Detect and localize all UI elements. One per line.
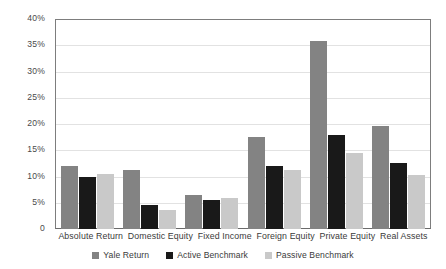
bar-group: [61, 20, 114, 229]
bar[interactable]: [346, 153, 363, 229]
bar-group: [123, 20, 176, 229]
y-axis-tick-label: 10%: [0, 171, 45, 181]
bar-groups: [56, 20, 430, 229]
legend-item[interactable]: Yale Return: [92, 250, 149, 260]
bar[interactable]: [266, 166, 283, 229]
bar[interactable]: [159, 210, 176, 229]
bar[interactable]: [203, 200, 220, 229]
bar-group: [248, 20, 301, 229]
x-axis-tick-label: Real Assets: [380, 231, 428, 245]
y-axis-tick-label: 35%: [0, 39, 45, 49]
y-axis-tick-label: 20%: [0, 118, 45, 128]
y-axis-tick-label: 15%: [0, 144, 45, 154]
bar[interactable]: [284, 170, 301, 229]
bar[interactable]: [328, 135, 345, 230]
bar[interactable]: [372, 126, 389, 229]
legend-label: Active Benchmark: [177, 250, 248, 260]
bar[interactable]: [310, 41, 327, 229]
bar[interactable]: [123, 170, 140, 229]
bar[interactable]: [390, 163, 407, 229]
bar[interactable]: [97, 174, 114, 229]
x-axis-tick-label: Domestic Equity: [128, 231, 193, 245]
y-axis-tick-label: 25%: [0, 92, 45, 102]
bar[interactable]: [79, 177, 96, 230]
x-axis-tick-label: Fixed Income: [198, 231, 252, 245]
bar-chart: 40%35%30%25%20%15%10%5%0 Absolute Return…: [0, 0, 446, 269]
bar[interactable]: [408, 175, 425, 229]
legend: Yale ReturnActive BenchmarkPassive Bench…: [0, 250, 446, 260]
bar[interactable]: [248, 137, 265, 229]
y-axis: 40%35%30%25%20%15%10%5%0: [0, 0, 49, 269]
legend-label: Yale Return: [103, 250, 149, 260]
bar-group: [185, 20, 238, 229]
y-axis-tick-label: 30%: [0, 66, 45, 76]
legend-swatch-icon: [92, 252, 99, 259]
x-axis: Absolute ReturnDomestic EquityFixed Inco…: [56, 231, 430, 245]
bar[interactable]: [141, 205, 158, 229]
bar[interactable]: [185, 195, 202, 229]
legend-item[interactable]: Passive Benchmark: [265, 250, 354, 260]
y-axis-tick-label: 5%: [0, 197, 45, 207]
legend-item[interactable]: Active Benchmark: [166, 250, 248, 260]
bar-group: [310, 20, 363, 229]
x-axis-tick-label: Private Equity: [320, 231, 376, 245]
bar-group: [372, 20, 425, 229]
y-axis-tick-label: 0: [0, 223, 45, 233]
legend-label: Passive Benchmark: [276, 250, 354, 260]
x-axis-tick-label: Foreign Equity: [257, 231, 315, 245]
legend-swatch-icon: [265, 252, 272, 259]
bar[interactable]: [61, 166, 78, 229]
legend-swatch-icon: [166, 252, 173, 259]
y-axis-tick-label: 40%: [0, 13, 45, 23]
bar[interactable]: [221, 198, 238, 230]
x-axis-tick-label: Absolute Return: [58, 231, 123, 245]
